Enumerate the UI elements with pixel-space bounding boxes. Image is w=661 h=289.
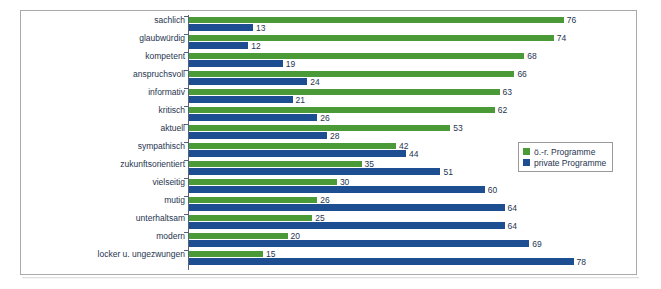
bar-value-label: 20 bbox=[291, 232, 300, 240]
category-label: anspruchsvoll bbox=[35, 69, 185, 79]
bar-value-label: 44 bbox=[409, 150, 418, 158]
bar-value-label: 66 bbox=[517, 70, 526, 78]
bar-blue bbox=[189, 222, 505, 229]
bar-blue bbox=[189, 96, 293, 103]
bar-value-label: 51 bbox=[443, 168, 452, 176]
bar-row: vielseitig3060 bbox=[21, 178, 636, 195]
bar-blue bbox=[189, 168, 440, 175]
chart-page: sachlich7613glaubwürdig7412kompetent6819… bbox=[0, 0, 661, 289]
bar-value-label: 69 bbox=[532, 240, 541, 248]
category-label: locker u. ungezwungen bbox=[35, 249, 185, 259]
bar-blue bbox=[189, 42, 248, 49]
category-label: vielseitig bbox=[35, 177, 185, 187]
bar-row: modern2069 bbox=[21, 232, 636, 249]
bar-value-label: 21 bbox=[296, 96, 305, 104]
bar-value-label: 60 bbox=[488, 186, 497, 194]
bar-green bbox=[189, 107, 495, 114]
category-label: mutig bbox=[35, 195, 185, 205]
bar-value-label: 42 bbox=[399, 142, 408, 150]
bar-value-label: 15 bbox=[266, 250, 275, 258]
bar-blue bbox=[189, 60, 283, 67]
category-label: kompetent bbox=[35, 51, 185, 61]
bar-value-label: 68 bbox=[527, 52, 536, 60]
category-label: sachlich bbox=[35, 15, 185, 25]
legend-label-private: private Programme bbox=[534, 158, 606, 168]
bar-green bbox=[189, 215, 312, 222]
bar-value-label: 25 bbox=[315, 214, 324, 222]
bar-value-label: 64 bbox=[508, 204, 517, 212]
bar-green bbox=[189, 179, 337, 186]
bar-value-label: 63 bbox=[503, 88, 512, 96]
bar-row: informativ6321 bbox=[21, 88, 636, 105]
green-swatch-icon bbox=[523, 148, 530, 155]
bar-blue bbox=[189, 150, 406, 157]
chart-legend: ö.-r. Programme private Programme bbox=[518, 142, 613, 172]
bar-row: unterhaltsam2564 bbox=[21, 214, 636, 231]
category-label: sympathisch bbox=[35, 141, 185, 151]
legend-item-private: private Programme bbox=[523, 157, 606, 168]
category-label: aktuell bbox=[35, 123, 185, 133]
bar-green bbox=[189, 251, 263, 258]
bar-blue bbox=[189, 258, 574, 265]
bar-blue bbox=[189, 114, 317, 121]
bar-green bbox=[189, 89, 500, 96]
category-label: kritisch bbox=[35, 105, 185, 115]
bar-blue bbox=[189, 24, 253, 31]
blue-swatch-icon bbox=[523, 159, 530, 166]
bar-value-label: 35 bbox=[365, 160, 374, 168]
bar-row: glaubwürdig7412 bbox=[21, 34, 636, 51]
bar-blue bbox=[189, 78, 307, 85]
cut-off-title bbox=[0, 0, 661, 10]
bar-value-label: 28 bbox=[330, 132, 339, 140]
frame-shadow bbox=[22, 277, 639, 279]
bar-value-label: 53 bbox=[453, 124, 462, 132]
category-label: modern bbox=[35, 231, 185, 241]
bar-row: kritisch6226 bbox=[21, 106, 636, 123]
bar-value-label: 26 bbox=[320, 114, 329, 122]
category-label: zukunftsorientiert bbox=[35, 159, 185, 169]
legend-item-oer: ö.-r. Programme bbox=[523, 146, 606, 157]
bar-green bbox=[189, 125, 450, 132]
bar-row: aktuell5328 bbox=[21, 124, 636, 141]
bar-value-label: 76 bbox=[567, 16, 576, 24]
bar-value-label: 13 bbox=[256, 24, 265, 32]
bar-green bbox=[189, 53, 524, 60]
bar-row: anspruchsvoll6624 bbox=[21, 70, 636, 87]
bar-green bbox=[189, 71, 514, 78]
chart-frame: sachlich7613glaubwürdig7412kompetent6819… bbox=[20, 10, 637, 275]
bar-value-label: 19 bbox=[286, 60, 295, 68]
bar-green bbox=[189, 143, 396, 150]
category-label: glaubwürdig bbox=[35, 33, 185, 43]
bar-value-label: 12 bbox=[251, 42, 260, 50]
bar-value-label: 74 bbox=[557, 34, 566, 42]
bar-row: mutig2664 bbox=[21, 196, 636, 213]
bar-blue bbox=[189, 132, 327, 139]
bar-blue bbox=[189, 186, 485, 193]
bar-green bbox=[189, 161, 362, 168]
legend-label-oer: ö.-r. Programme bbox=[534, 147, 595, 157]
bar-value-label: 30 bbox=[340, 178, 349, 186]
bar-value-label: 26 bbox=[320, 196, 329, 204]
category-label: informativ bbox=[35, 87, 185, 97]
bar-row: kompetent6819 bbox=[21, 52, 636, 69]
bar-value-label: 78 bbox=[577, 258, 586, 266]
bar-green bbox=[189, 17, 564, 24]
bar-green bbox=[189, 35, 554, 42]
bar-value-label: 24 bbox=[310, 78, 319, 86]
bar-green bbox=[189, 233, 288, 240]
bar-green bbox=[189, 197, 317, 204]
bar-row: locker u. ungezwungen1578 bbox=[21, 250, 636, 267]
bar-blue bbox=[189, 204, 505, 211]
bar-value-label: 64 bbox=[508, 222, 517, 230]
bar-blue bbox=[189, 240, 529, 247]
bar-value-label: 62 bbox=[498, 106, 507, 114]
bar-row: sachlich7613 bbox=[21, 16, 636, 33]
category-label: unterhaltsam bbox=[35, 213, 185, 223]
